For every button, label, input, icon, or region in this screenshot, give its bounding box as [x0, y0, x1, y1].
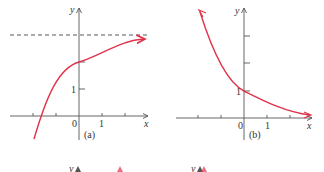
- origin-label-b: 0: [238, 120, 243, 131]
- caption-b: (b): [249, 129, 261, 141]
- curve-a: [34, 39, 145, 139]
- partial-curve-arrow-2: [201, 166, 207, 172]
- partial-row: y y: [68, 163, 207, 172]
- x-label-b: x: [306, 120, 312, 131]
- partial-axis-arrow-1: [75, 166, 81, 172]
- x-tick-label-a: 1: [99, 118, 104, 129]
- x-tick-label-b: 1: [265, 120, 270, 131]
- y-label-b: y: [234, 5, 240, 16]
- y-tick-label-b: 1: [236, 86, 241, 97]
- y-label-a: y: [69, 4, 75, 15]
- y-tick-label-a: 1: [71, 84, 76, 95]
- panel-a: y x 0 1 1 (a): [10, 4, 149, 141]
- partial-y-label-2: y: [190, 163, 196, 172]
- figure: y x 0 1 1 (a) y x 0 1 1 (b) y: [0, 0, 324, 172]
- caption-a: (a): [84, 129, 95, 141]
- y-ticks-a: [79, 62, 85, 89]
- origin-label-a: 0: [72, 118, 77, 129]
- panel-b: y x 0 1 1 (b): [176, 5, 312, 141]
- partial-y-label-1: y: [68, 163, 74, 172]
- y-ticks-b: [244, 36, 250, 91]
- x-label-a: x: [143, 118, 149, 129]
- partial-curve-arrow-1: [117, 166, 123, 172]
- curve-b: [200, 12, 310, 115]
